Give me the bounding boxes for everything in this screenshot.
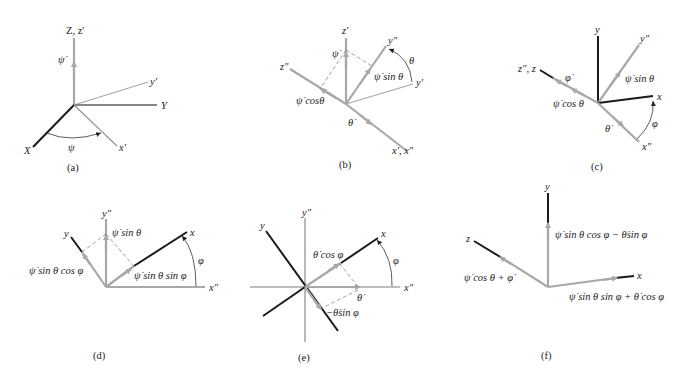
y-prime-label: y'	[149, 76, 158, 87]
dash-to-x	[106, 234, 133, 265]
phi-angle-arc	[377, 240, 392, 286]
psi-angle-label: ψ	[68, 142, 75, 153]
psi-sin-theta-arrow	[610, 72, 620, 86]
neg-theta-sin-phi-label: −θ̇sin φ	[326, 307, 359, 318]
caption-e: (e)	[298, 352, 310, 364]
dash-to-y-double	[346, 50, 372, 66]
y-double-label: y"	[301, 207, 312, 218]
panel-a: Z, z' ψ̇ y' Y X x' ψ (a)	[23, 25, 168, 174]
panel-d: y" ψ̇ sin θ y x φ ψ̇ sin θ cos φ ψ̇ sin …	[29, 208, 219, 362]
z-component-label: ψ̇ cos θ + φ̇	[464, 272, 516, 283]
z-double-label: z"	[279, 61, 289, 72]
y-prime-axis	[346, 84, 413, 104]
x-axis-black-lower	[263, 287, 305, 316]
phi-angle-arc	[637, 101, 653, 139]
panel-b: z' ψ̇ y" θ ψ̇ sin θ y' z" ψ̇ cosθ θ̇ x',…	[279, 25, 424, 171]
phi-angle-label: φ	[198, 255, 204, 266]
theta-cos-phi-label: θ̇ cos φ	[313, 249, 343, 260]
x-axis-black-upper	[341, 238, 378, 263]
x-axis-label: x	[189, 227, 195, 238]
y-axis-label: y	[259, 220, 265, 231]
psi-sin-theta-arrow	[360, 69, 370, 84]
x-axis-label: x	[656, 91, 662, 102]
panel-e: y" y x θ̇ cos φ φ x" θ̇ −θ̇sin φ (e)	[250, 207, 414, 364]
dash-to-x	[340, 264, 358, 287]
caption-f: (f)	[541, 350, 552, 362]
x-double-label: x"	[641, 141, 652, 152]
x-prime-x-double-axis	[346, 104, 407, 151]
psi-cos-theta-arrow	[572, 89, 585, 96]
psi-dot-label: ψ̇	[58, 54, 68, 65]
psi-dot-label: ψ̇	[332, 48, 342, 59]
psi-sin-theta-cos-phi-label: ψ̇ sin θ cos φ	[29, 265, 83, 276]
dash-to-y	[82, 234, 106, 252]
dash-to-y	[322, 290, 358, 308]
z-axis-black	[474, 241, 502, 258]
x-prime-x-double-label: x', x"	[391, 145, 414, 156]
X-axis	[33, 105, 74, 147]
phi-dot-label: φ̇	[565, 72, 574, 83]
phi-angle-label: φ	[652, 118, 658, 129]
z-double-z-label: z", z	[517, 63, 536, 74]
y-axis-black	[71, 237, 82, 252]
psi-sin-theta-cos-phi-arrow	[83, 254, 90, 264]
theta-angle-label: θ	[409, 55, 414, 66]
X-axis-label: X	[23, 145, 31, 156]
x-double-label: x"	[403, 282, 414, 293]
y-double-label: y"	[387, 35, 398, 46]
z-axis-label: z	[465, 233, 470, 244]
y-prime-label: y'	[415, 77, 424, 88]
Y-axis-label: Y	[161, 100, 168, 111]
x-double-label: x"	[208, 282, 219, 293]
y-double-label: y"	[639, 33, 650, 44]
z-axis-label: Z, z'	[66, 25, 84, 36]
caption-a: (a)	[67, 162, 79, 174]
panel-c: y y" z", z φ̇ ψ̇ sin θ ψ̇ cos θ x θ̇ φ x…	[517, 24, 662, 173]
caption-b: (b)	[339, 159, 352, 171]
psi-angle-arc	[47, 133, 101, 138]
y-axis-label: y	[544, 181, 550, 192]
theta-dot-label: θ̇	[357, 292, 365, 303]
x-prime-axis	[74, 105, 117, 146]
z-prime-label: z'	[341, 25, 349, 36]
euler-angle-figure: Z, z' ψ̇ y' Y X x' ψ (a) z' ψ̇ y" θ ψ̇ s…	[0, 0, 698, 374]
caption-d: (d)	[93, 350, 106, 362]
x-axis	[598, 96, 653, 103]
z-double-z-axis-black	[540, 70, 553, 78]
x-axis-black	[615, 276, 634, 278]
theta-dot-arrow	[360, 115, 371, 124]
psi-cos-theta-label: ψ̇ cosθ	[296, 95, 324, 106]
y-axis-label: y	[63, 228, 69, 239]
x-axis-black	[134, 232, 187, 266]
y-component-label: ψ̇ sin θ cos φ − θ̇sin φ	[555, 229, 648, 240]
z-component-arrow	[500, 257, 511, 264]
y-double-label: y"	[101, 208, 112, 219]
psi-sin-theta-label: ψ̇ sin θ	[625, 73, 654, 84]
y-prime-axis	[74, 82, 148, 105]
x-prime-label: x'	[118, 142, 127, 153]
x-component-label: ψ̇ sin θ sin φ + θ̇ cos φ	[569, 291, 664, 302]
psi-cos-theta-label: ψ̇ cos θ	[553, 98, 584, 109]
psi-sin-theta-label: ψ̇ sin θ	[374, 71, 403, 82]
caption-c: (c)	[591, 161, 603, 173]
x-axis-label: x	[636, 270, 642, 281]
theta-cos-phi-arrow	[328, 264, 339, 271]
x-axis-label: x	[380, 228, 386, 239]
theta-dot-arrow	[612, 116, 623, 126]
psi-sin-theta-sin-phi-label: ψ̇ sin θ sin φ	[134, 270, 187, 281]
theta-dot-label: θ̇	[605, 123, 613, 134]
psi-sin-theta-label: ψ̇ sin θ	[112, 227, 141, 238]
theta-dot-label: θ̇	[348, 117, 356, 128]
y-axis-label: y	[594, 24, 600, 35]
panel-f: y ψ̇ sin θ cos φ − θ̇sin φ z ψ̇ cos θ + …	[464, 181, 664, 362]
psi-sin-theta-sin-phi-arrow	[121, 269, 131, 276]
phi-angle-label: φ	[393, 255, 399, 266]
